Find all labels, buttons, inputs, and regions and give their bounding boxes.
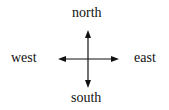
- arrow-head-east-icon: [111, 56, 119, 62]
- compass-arrows-icon: [0, 0, 169, 110]
- arrow-head-west-icon: [58, 56, 66, 62]
- arrow-head-south-icon: [85, 80, 91, 88]
- arrow-head-north-icon: [85, 30, 91, 38]
